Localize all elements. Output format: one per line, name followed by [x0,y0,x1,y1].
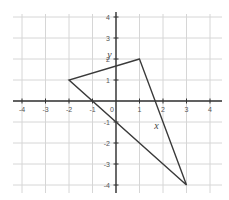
y-tick-label: -2 [104,140,110,147]
x-tick-label: 1 [138,106,142,113]
y-tick-label: 1 [106,77,110,84]
x-variable-label: x [153,120,159,131]
x-tick-label: 3 [185,106,189,113]
x-tick-label: 0 [110,106,114,113]
y-tick-label: 3 [106,35,110,42]
x-tick-label: -4 [19,106,25,113]
x-tick-label: 4 [208,106,212,113]
x-tick-label: -2 [66,106,72,113]
y-tick-label: -1 [104,119,110,126]
y-variable-label: y [106,49,112,60]
y-tick-label: 4 [106,14,110,21]
coordinate-plane: -4-3-2-101234-4-3-2-11234 yx [0,0,229,200]
x-tick-label: 2 [161,106,165,113]
y-tick-label: -3 [104,161,110,168]
y-tick-label: -4 [104,182,110,189]
x-tick-label: -1 [89,106,95,113]
grid-lines [13,14,222,193]
axes [13,12,222,193]
x-tick-label: -3 [42,106,48,113]
